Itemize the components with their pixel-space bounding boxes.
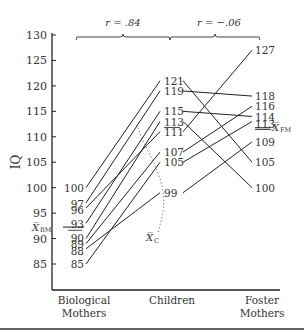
- foster-value-label: 127: [255, 44, 275, 56]
- y-axis-label: IQ: [9, 155, 23, 170]
- child-mean-label: X̅: [145, 232, 154, 243]
- child-value-label: 99: [164, 187, 177, 199]
- foster-mean-subscript: FM: [280, 126, 292, 134]
- y-tick-label: 125: [26, 54, 47, 67]
- brace: [76, 34, 170, 40]
- y-tick-label: 120: [26, 80, 47, 93]
- category-label: Biological: [58, 294, 111, 306]
- y-tick-label: 100: [26, 182, 47, 195]
- bottom-rule: [0, 328, 304, 330]
- foster-value-label: 100: [255, 182, 275, 194]
- bio-child-line: [86, 111, 160, 223]
- category-label: Foster: [245, 294, 280, 306]
- child-foster-line: [183, 122, 252, 163]
- y-tick-label: 110: [26, 131, 47, 144]
- child-foster-line: [183, 50, 252, 131]
- y-tick-label: 105: [26, 156, 47, 169]
- y-tick-label: 85: [33, 258, 47, 271]
- bio-mean-subscript: BM: [40, 226, 52, 234]
- brace: [170, 34, 260, 40]
- axes: 859095100105110115120125130IQBiologicalM…: [9, 29, 284, 319]
- foster-value-label: 105: [255, 156, 275, 168]
- child-value-label: 119: [164, 85, 184, 97]
- bio-mean-label: X̅: [31, 222, 40, 233]
- category-label: Children: [149, 294, 195, 306]
- biological-value-label: 100: [64, 182, 84, 194]
- category-label: Mothers: [240, 307, 285, 319]
- biological-value-label: 88: [71, 245, 84, 257]
- child-foster-line: [183, 142, 252, 193]
- bio-child-line: [86, 152, 160, 244]
- y-tick-label: 95: [33, 207, 47, 220]
- biological-value-label: 85: [71, 258, 84, 270]
- value-labels: 1009796939089888512111911511311110710599…: [64, 44, 275, 270]
- y-tick-label: 115: [26, 105, 47, 118]
- category-label: Mothers: [62, 307, 107, 319]
- correlation-label-bio-child: r = .84: [105, 17, 140, 28]
- bio-child-line: [86, 91, 160, 203]
- child-mean-subscript: C: [154, 237, 159, 245]
- bio-child-line: [86, 132, 160, 208]
- correlation-label-child-foster: r = −.06: [197, 17, 241, 28]
- y-tick-label: 130: [26, 29, 47, 42]
- child-foster-line: [183, 106, 252, 152]
- chart-container: 859095100105110115120125130IQBiologicalM…: [0, 0, 304, 333]
- foster-mean-label: X̅: [271, 122, 280, 133]
- child-foster-line: [183, 122, 252, 188]
- foster-value-label: 109: [255, 136, 275, 148]
- biological-value-label: 93: [71, 218, 84, 230]
- correlation-brackets: r = .84r = −.06: [76, 17, 260, 40]
- bio-child-line: [86, 162, 160, 264]
- child-value-label: 105: [164, 156, 184, 168]
- biological-value-label: 96: [71, 204, 85, 216]
- y-tick-label: 90: [33, 233, 47, 246]
- paired-iq-chart: 859095100105110115120125130IQBiologicalM…: [0, 0, 304, 333]
- bio-child-line: [86, 81, 160, 188]
- child-mean-pointer: [138, 127, 164, 233]
- child-foster-line: [183, 111, 252, 116]
